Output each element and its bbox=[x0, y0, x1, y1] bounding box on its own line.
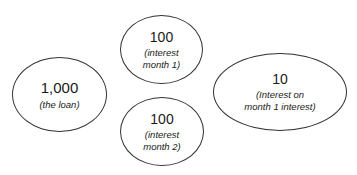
interest-on-interest-caption: (Interest on month 1 interest) bbox=[244, 89, 315, 113]
caption-line: (interest bbox=[143, 47, 181, 59]
loan-value: 1,000 bbox=[41, 79, 79, 97]
interest-month-2-bubble: 100 (interest month 2) bbox=[120, 97, 204, 166]
interest-month-1-bubble: 100 (interest month 1) bbox=[120, 15, 203, 84]
interest-on-interest-bubble: 10 (Interest on month 1 interest) bbox=[213, 53, 347, 131]
interest-month-1-caption: (interest month 1) bbox=[143, 47, 181, 71]
interest-month-2-caption: (interest month 2) bbox=[143, 129, 181, 153]
caption-line: month 1 interest) bbox=[244, 101, 315, 113]
interest-month-2-value: 100 bbox=[150, 111, 173, 127]
caption-line: (interest bbox=[143, 129, 181, 141]
caption-line: (Interest on bbox=[244, 89, 315, 101]
interest-on-interest-value: 10 bbox=[272, 71, 288, 87]
caption-line: month 1) bbox=[143, 59, 181, 71]
interest-month-1-value: 100 bbox=[150, 29, 173, 45]
loan-bubble: 1,000 (the loan) bbox=[12, 57, 107, 132]
caption-line: month 2) bbox=[143, 141, 181, 153]
loan-caption: (the loan) bbox=[39, 99, 79, 111]
